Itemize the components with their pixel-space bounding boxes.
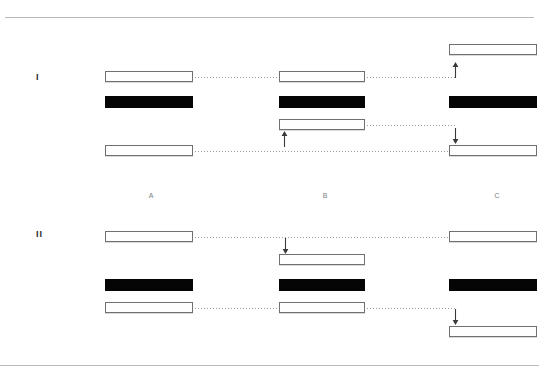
band-ii-lane-c-open <box>449 231 537 242</box>
band-i-lane-c-filled <box>449 96 537 108</box>
band-i-lane-b-filled <box>279 96 365 108</box>
band-ii-lane-b-open <box>279 254 365 265</box>
band-i-lane-b-open <box>279 119 365 130</box>
band-ii-lane-b-open <box>279 302 365 313</box>
band-i-lane-c-open <box>449 44 537 55</box>
bottom-rule <box>0 365 539 366</box>
arrow-down-i-lane-c <box>451 128 460 144</box>
connector-line-ii-b-c <box>367 308 455 309</box>
connector-line-i-b-c <box>367 125 455 126</box>
band-ii-lane-a-open <box>105 302 193 313</box>
band-i-lane-a-filled <box>105 96 193 108</box>
arrow-down-ii-lane-c <box>451 309 460 325</box>
band-i-lane-a-open <box>105 71 193 82</box>
lane-label-a: A <box>141 191 161 200</box>
band-i-lane-a-open <box>105 145 193 156</box>
connector-line-ii-a-c <box>195 237 448 238</box>
panel-label-ii: II <box>36 229 43 240</box>
arrow-down-ii-lane-b <box>281 238 290 254</box>
lane-label-c: C <box>487 191 507 200</box>
lane-label-b: B <box>315 191 335 200</box>
band-ii-lane-a-filled <box>105 279 193 291</box>
band-i-lane-b-open <box>279 71 365 82</box>
connector-line-i-a-c <box>195 151 448 152</box>
connector-line-i-b-c <box>367 77 455 78</box>
arrow-up-i-lane-c <box>451 62 460 78</box>
band-ii-lane-a-open <box>105 231 193 242</box>
band-ii-lane-c-filled <box>449 279 537 291</box>
band-ii-lane-b-filled <box>279 279 365 291</box>
connector-line-i-a-b <box>195 77 277 78</box>
panel-label-i: I <box>36 72 40 83</box>
top-rule <box>5 17 534 18</box>
band-ii-lane-c-open <box>449 326 537 337</box>
gel-band-figure: IIIABC <box>0 0 539 375</box>
arrow-up-i-lane-b <box>280 131 289 147</box>
connector-line-ii-a-b <box>195 308 277 309</box>
band-i-lane-c-open <box>449 145 537 156</box>
